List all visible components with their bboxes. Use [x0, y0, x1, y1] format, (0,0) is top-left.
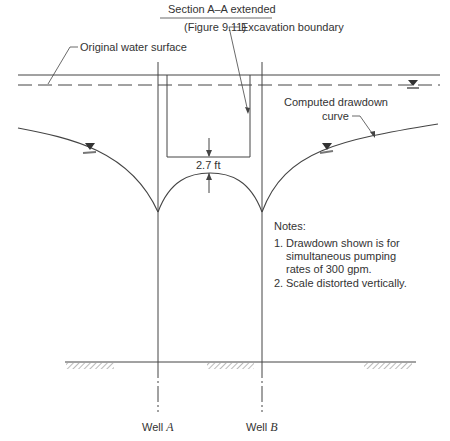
- drawdown-curve-right: [262, 124, 438, 212]
- hatch-middle: [207, 363, 254, 369]
- figure-subtitle: (Figure 9.11): [184, 21, 246, 34]
- label-excavation-boundary: Excavation boundary: [241, 21, 344, 34]
- well-a-label: Well A: [142, 421, 174, 434]
- label-computed-drawdown: Computed drawdown: [284, 96, 388, 109]
- leader-excavation-boundary: [229, 27, 248, 112]
- leader-computed-drawdown: [352, 116, 374, 136]
- label-clearance: 2.7 ft: [196, 159, 220, 172]
- well-b-label: Well B: [246, 421, 278, 434]
- note-item: 1. Drawdown shown is for simultaneous pu…: [274, 237, 407, 276]
- hatch-right: [364, 363, 412, 369]
- note-item: 2. Scale distorted vertically.: [274, 277, 407, 290]
- notes-block: Notes: 1. Drawdown shown is for simultan…: [274, 220, 407, 291]
- water-table-symbol-left: [83, 143, 96, 153]
- hatch-left: [66, 363, 114, 369]
- label-original-water-surface: Original water surface: [80, 41, 187, 54]
- leader-original-water-surface: [48, 47, 78, 84]
- drawdown-curve-left: [18, 128, 158, 212]
- notes-heading: Notes:: [274, 220, 407, 233]
- water-table-symbol-right: [407, 80, 419, 88]
- water-table-symbol-curve-right: [320, 143, 333, 153]
- label-computed-drawdown-curve: curve: [322, 110, 349, 123]
- figure-title: Section A–A extended: [168, 3, 276, 16]
